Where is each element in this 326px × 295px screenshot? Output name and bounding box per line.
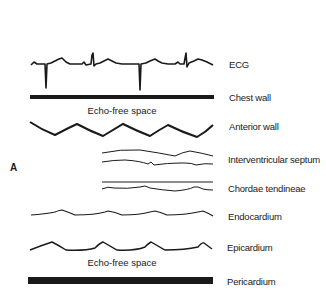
- m-mode-echo-diagram: [0, 0, 326, 295]
- label-interventricular-septum: Interventricular septum: [228, 154, 320, 165]
- anterior-wall-trace: [30, 122, 213, 137]
- label-chest-wall: Chest wall: [229, 92, 271, 103]
- epicardium-trace: [30, 242, 212, 250]
- label-ecg: ECG: [229, 59, 249, 70]
- label-anterior-wall: Anterior wall: [229, 121, 279, 132]
- ecg-trace: [31, 53, 213, 90]
- panel-letter: A: [10, 162, 17, 173]
- label-endocardium: Endocardium: [228, 211, 282, 222]
- septum-lower-trace: [102, 160, 213, 165]
- chest-wall-line: [30, 95, 214, 99]
- label-epicardium: Epicardium: [227, 242, 273, 253]
- label-pericardium: Pericardium: [227, 276, 275, 287]
- echo-free-space-bottom: Echo-free space: [87, 257, 156, 268]
- chordae-lower-trace: [102, 186, 213, 191]
- pericardium-line: [28, 277, 213, 284]
- septum-upper-trace: [102, 150, 213, 156]
- echo-free-space-top: Echo-free space: [87, 105, 156, 116]
- endocardium-trace: [31, 210, 213, 216]
- label-chordae-tendineae: Chordae tendineae: [228, 183, 305, 194]
